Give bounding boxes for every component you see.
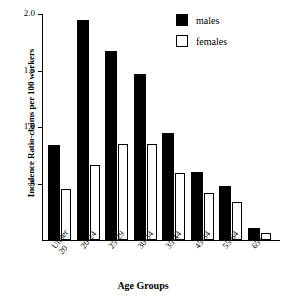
y-axis-tick-label: .5 xyxy=(28,178,35,188)
bar-males xyxy=(48,145,60,240)
bar-males xyxy=(162,133,174,240)
bar-females xyxy=(118,144,128,240)
bar-females xyxy=(147,144,157,240)
y-axis-tick: 2.0 xyxy=(38,14,43,15)
y-axis-tick-label: 1.0 xyxy=(24,121,35,131)
plot-area: 2.01.51.0.5 xyxy=(42,14,280,241)
y-axis-tick: 1.0 xyxy=(38,127,43,128)
bar-group xyxy=(48,14,71,240)
legend-swatch-male-icon xyxy=(176,14,188,26)
legend-item-females: females xyxy=(176,35,227,47)
legend-swatch-female-icon xyxy=(176,35,188,47)
bar-males xyxy=(191,172,203,240)
bar-chart-figure: Incidence Ratio-claims per 100 workers 2… xyxy=(0,0,286,301)
legend-label-females: females xyxy=(196,36,227,47)
bar-group xyxy=(77,14,100,240)
bar-males xyxy=(105,51,117,240)
bar-males xyxy=(77,20,89,240)
y-axis-tick: .5 xyxy=(38,184,43,185)
bar-group xyxy=(248,14,271,240)
legend-label-males: males xyxy=(196,15,219,26)
bar-males xyxy=(134,74,146,240)
y-axis-tick: 1.5 xyxy=(38,71,43,72)
y-axis-tick-label: 1.5 xyxy=(24,65,35,75)
legend-item-males: males xyxy=(176,14,227,26)
x-axis-line xyxy=(42,240,280,241)
x-axis-title: Age Groups xyxy=(0,280,286,291)
bar-group xyxy=(105,14,128,240)
chart-legend: males females xyxy=(176,14,227,56)
y-axis-tick-label: 2.0 xyxy=(24,8,35,18)
bar-group xyxy=(134,14,157,240)
